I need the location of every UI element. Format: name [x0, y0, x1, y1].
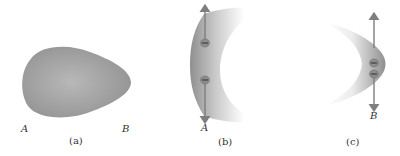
panel-b-point-label-a: A: [201, 123, 208, 133]
panel-c-charge-2: [370, 70, 379, 78]
panel-b-caption: (b): [218, 137, 232, 147]
panel-b-charge-2: [201, 76, 210, 84]
figure-graphics: [0, 0, 400, 156]
panel-a-caption: (a): [69, 136, 83, 146]
panel-a-conductor-shape: [22, 47, 131, 118]
panel-b-charge-1: [201, 39, 210, 47]
panel-c-point-label-b: B: [370, 111, 377, 121]
panel-a-point-label-b: B: [122, 124, 129, 134]
panel-b-conductor-shape: [190, 7, 262, 123]
panel-c-caption: (c): [346, 137, 359, 147]
panel-a-point-label-a: A: [21, 124, 28, 134]
panel-c-conductor-shape: [325, 16, 386, 108]
charge-distribution-figure: A B (a) A (b) B (c): [0, 0, 400, 156]
panel-c-charge-1: [370, 59, 379, 67]
